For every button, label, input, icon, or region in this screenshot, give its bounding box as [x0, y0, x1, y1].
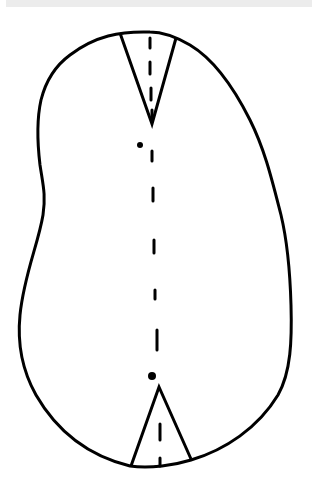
axis-dots — [137, 142, 156, 380]
axis-dot — [137, 142, 143, 148]
top-v-notch — [120, 33, 176, 124]
axis-dot — [148, 372, 156, 380]
bean-diagram — [0, 0, 312, 500]
